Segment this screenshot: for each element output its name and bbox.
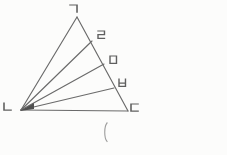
vertex-label-ㄴ [4, 103, 11, 110]
cevian-line-to-ㅂ [21, 88, 114, 110]
vertex-label-ㄷ [131, 104, 138, 111]
triangle-edge-ㄴㄷ [21, 110, 128, 111]
vertex-label-ㄱ [70, 5, 77, 12]
side-point-label-ㅂ [119, 79, 125, 86]
side-point-label-ㅁ [110, 56, 116, 63]
diagram-canvas [0, 0, 227, 155]
triangle-figure [0, 0, 227, 155]
side-point-label-ㄹ [98, 31, 104, 38]
open-paren-mark [105, 123, 107, 141]
cevian-line-to-ㅁ [21, 64, 104, 110]
